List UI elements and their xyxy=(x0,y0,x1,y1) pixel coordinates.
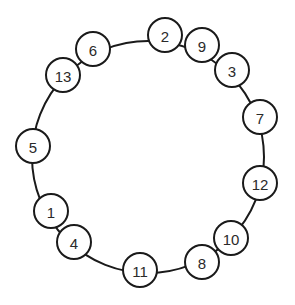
ring-diagram: 29371210811415136 xyxy=(0,0,295,305)
node-9: 9 xyxy=(185,28,219,62)
node-12: 12 xyxy=(243,166,277,200)
node-label: 9 xyxy=(198,38,206,55)
node-label: 2 xyxy=(161,28,169,45)
node-11: 11 xyxy=(123,253,157,287)
node-3: 3 xyxy=(215,53,249,87)
node-label: 1 xyxy=(47,204,55,221)
node-label: 10 xyxy=(223,231,240,248)
node-4: 4 xyxy=(57,225,91,259)
node-label: 8 xyxy=(198,255,206,272)
node-label: 13 xyxy=(55,68,72,85)
node-10: 10 xyxy=(214,221,248,255)
node-1: 1 xyxy=(34,194,68,228)
node-5: 5 xyxy=(16,129,50,163)
node-label: 5 xyxy=(29,139,37,156)
node-label: 12 xyxy=(252,176,269,193)
node-label: 11 xyxy=(132,263,148,280)
node-2: 2 xyxy=(148,18,182,52)
node-label: 7 xyxy=(256,110,264,127)
node-8: 8 xyxy=(185,245,219,279)
node-label: 4 xyxy=(70,235,78,252)
node-6: 6 xyxy=(76,32,110,66)
node-group: 29371210811415136 xyxy=(16,18,277,287)
node-label: 6 xyxy=(89,42,97,59)
node-13: 13 xyxy=(46,58,80,92)
node-7: 7 xyxy=(243,100,277,134)
node-label: 3 xyxy=(228,63,236,80)
